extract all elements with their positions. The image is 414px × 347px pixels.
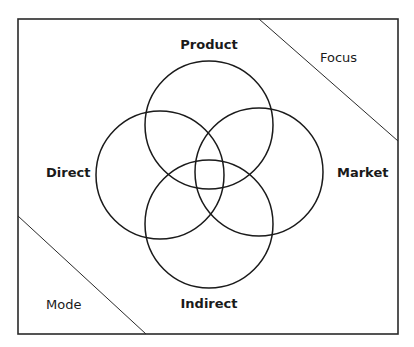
circle-product — [145, 61, 273, 189]
circle-indirect — [145, 160, 273, 288]
label-mode: Mode — [46, 298, 81, 311]
circle-market — [195, 108, 323, 236]
label-product: Product — [180, 38, 237, 51]
label-focus: Focus — [320, 51, 357, 64]
label-direct: Direct — [46, 166, 90, 179]
focus-divider-line — [259, 19, 398, 141]
mode-divider-line — [18, 216, 146, 334]
label-market: Market — [337, 166, 388, 179]
label-indirect: Indirect — [180, 297, 237, 310]
circle-direct — [96, 111, 224, 239]
